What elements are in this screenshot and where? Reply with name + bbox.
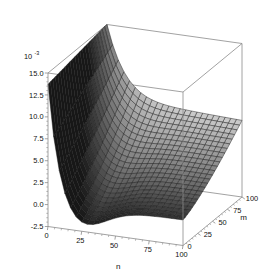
m-tick-label: 100 [246, 194, 258, 203]
m-tick-label: 0 [187, 242, 191, 251]
z-exponent-superscript: -3 [34, 50, 39, 56]
surface-plot-figure: -2.50.02.55.07.510.012.515.0025507510002… [0, 0, 267, 274]
z-tick-label: 7.5 [33, 134, 43, 143]
n-tick-label: 100 [175, 250, 187, 259]
n-tick-label: 25 [76, 236, 84, 245]
y-axis-label: m [240, 213, 247, 222]
n-tick-label: 75 [144, 245, 152, 254]
n-tick-label: 0 [44, 231, 48, 240]
z-tick-label: 12.5 [29, 91, 43, 100]
z-exponent-base: 10 [24, 52, 32, 61]
z-tick-label: 2.5 [33, 178, 43, 187]
m-tick-label: 50 [218, 218, 226, 227]
x-axis-label: n [116, 262, 120, 271]
z-tick-label: 0.0 [33, 200, 43, 209]
plot-canvas: -2.50.02.55.07.510.012.515.0025507510002… [0, 0, 267, 274]
z-tick-label: -2.5 [31, 222, 44, 231]
m-tick-label: 25 [204, 230, 212, 239]
n-tick-label: 50 [110, 241, 118, 250]
z-tick-label: 10.0 [29, 112, 43, 121]
z-tick-label: 5.0 [33, 156, 43, 165]
z-tick-label: 15.0 [29, 69, 43, 78]
